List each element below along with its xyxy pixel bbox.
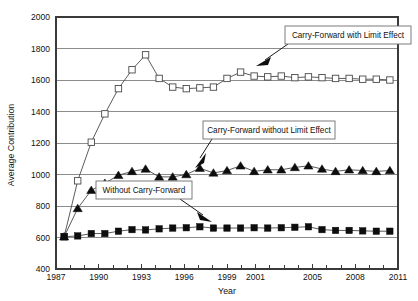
data-point	[373, 76, 379, 82]
data-point	[222, 166, 231, 173]
annotation-label: Carry-Forward without Limit Effect	[207, 126, 331, 135]
data-point	[292, 224, 298, 230]
data-point	[224, 75, 230, 81]
y-tick-label: 1200	[31, 138, 50, 148]
data-point	[156, 75, 162, 81]
data-point	[305, 74, 311, 80]
data-point	[142, 227, 148, 233]
data-point	[251, 73, 257, 79]
annotation-label: Carry-Forward with Limit Effect	[292, 31, 405, 40]
y-tick-label: 1800	[31, 44, 50, 54]
data-point	[305, 224, 311, 230]
x-tick-label: 2008	[346, 272, 365, 282]
series-line	[64, 55, 390, 237]
data-point	[292, 74, 298, 80]
y-axis-tick-labels: 2000 1800 1600 1400 1200 1000 800 600 40…	[31, 12, 50, 274]
data-point	[61, 234, 67, 240]
data-point	[88, 230, 94, 236]
data-point	[115, 228, 121, 234]
data-point	[142, 52, 148, 58]
data-point	[360, 76, 366, 82]
annotation-carry-forward-with-limit-effect[interactable]: Carry-Forward with Limit Effect	[256, 26, 411, 66]
data-point	[319, 74, 325, 80]
y-tick-label: 800	[36, 201, 50, 211]
data-point	[129, 67, 135, 73]
x-tick-label: 1996	[175, 272, 194, 282]
data-point	[183, 225, 189, 231]
data-point	[210, 84, 216, 90]
x-tick-label: 1993	[132, 272, 151, 282]
data-point	[385, 166, 394, 173]
data-point	[197, 224, 203, 230]
data-point	[304, 162, 313, 169]
data-point	[129, 226, 135, 232]
data-point	[210, 225, 216, 231]
annotation-arrow-head	[256, 57, 271, 66]
data-point	[332, 75, 338, 81]
data-point	[360, 228, 366, 234]
data-point	[115, 85, 121, 91]
data-point	[73, 204, 82, 211]
data-point	[387, 77, 393, 83]
data-point	[75, 178, 81, 184]
chart-figure: 2000 1800 1600 1400 1200 1000 800 600 40…	[0, 0, 418, 301]
y-tick-label: 2000	[31, 12, 50, 22]
data-point	[237, 225, 243, 231]
data-point	[224, 225, 230, 231]
y-tick-label: 600	[36, 233, 50, 243]
data-point	[170, 225, 176, 231]
data-point	[278, 225, 284, 231]
annotation-without-carry-forward[interactable]: Without Carry-Forward	[96, 181, 212, 222]
data-point	[319, 226, 325, 232]
data-point	[346, 227, 352, 233]
data-point	[170, 84, 176, 90]
annotation-arrow-head	[197, 212, 212, 222]
data-point	[102, 230, 108, 236]
data-point	[75, 233, 81, 239]
data-point	[155, 173, 164, 180]
data-point	[88, 139, 94, 145]
data-point	[251, 225, 257, 231]
x-axis-tick-marks	[56, 264, 398, 270]
chart-canvas: 2000 1800 1600 1400 1200 1000 800 600 40…	[0, 0, 418, 301]
x-tick-label: 2011	[389, 272, 408, 282]
x-tick-label: 2001	[246, 272, 265, 282]
annotation-carry-forward-without-limit-effect[interactable]: Carry-Forward without Limit Effect	[195, 121, 335, 168]
data-point	[263, 166, 272, 173]
data-point	[373, 228, 379, 234]
y-tick-label: 1600	[31, 75, 50, 85]
data-point	[265, 74, 271, 80]
annotation-label: Without Carry-Forward	[103, 186, 186, 195]
data-point	[387, 228, 393, 234]
x-axis-tick-labels: 1987 1990 1993 1996 1999 2001 2005 2008 …	[47, 272, 408, 282]
data-point	[236, 162, 245, 169]
data-point	[278, 73, 284, 79]
y-tick-label: 1000	[31, 170, 50, 180]
data-point	[141, 165, 150, 172]
annotation-leader-line	[180, 199, 203, 215]
x-axis-title: Year	[218, 286, 236, 296]
x-tick-label: 1987	[47, 272, 66, 282]
y-tick-label: 1400	[31, 107, 50, 117]
x-tick-label: 1990	[89, 272, 108, 282]
y-axis-title: Average Contribution	[6, 104, 16, 187]
data-point	[346, 75, 352, 81]
annotation-leader-line	[200, 139, 212, 158]
data-point	[345, 166, 354, 173]
data-point	[156, 226, 162, 232]
data-point	[332, 227, 338, 233]
data-point	[183, 85, 189, 91]
data-point	[102, 111, 108, 117]
x-tick-label: 1999	[218, 272, 237, 282]
data-point	[237, 69, 243, 75]
data-point	[265, 225, 271, 231]
annotation-leader-line	[265, 44, 288, 60]
data-point	[197, 85, 203, 91]
x-tick-label: 2005	[303, 272, 322, 282]
data-point	[87, 186, 96, 193]
